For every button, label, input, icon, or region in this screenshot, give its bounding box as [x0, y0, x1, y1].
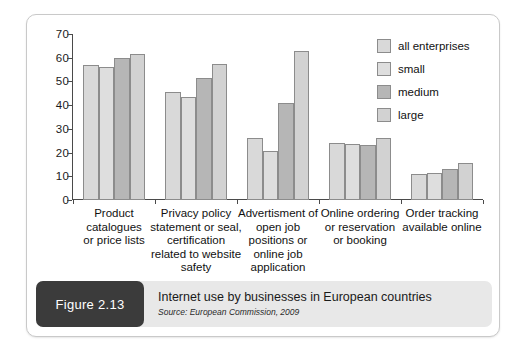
x-tick-4 [401, 200, 402, 204]
x-category-label-5: Order trackingavailable online [395, 207, 489, 234]
bar-small-group-2 [181, 97, 197, 200]
legend-swatch-icon-1 [377, 39, 391, 53]
bar-medium-group-4 [360, 145, 376, 200]
x-axis-category-labels: Productcataloguesor price listsPrivacy p… [73, 207, 485, 269]
x-category-label-3: Advertisment ofopen jobpositions oronlin… [231, 207, 325, 275]
legend-item-medium: medium [377, 83, 497, 101]
bar-large-group-1 [130, 54, 146, 200]
figure-card: 010203040506070 all enterprisessmallmedi… [26, 14, 500, 337]
y-tick-30 [67, 129, 72, 130]
x-category-label-2: Privacy policystatement or seal,certific… [149, 207, 243, 275]
figure-number-label: Figure 2.13 [55, 297, 124, 312]
y-tick-20 [67, 153, 72, 154]
bar-small-group-4 [345, 144, 361, 200]
bar-large-group-4 [376, 138, 392, 200]
y-axis-tick-labels: 010203040506070 [35, 15, 69, 195]
x-tick-1 [155, 200, 156, 204]
bar-all-enterprises-group-1 [83, 65, 99, 200]
bar-small-group-3 [263, 151, 279, 200]
figure-caption-bar: Figure 2.13 Internet use by businesses i… [36, 281, 492, 327]
bar-all-enterprises-group-4 [329, 143, 345, 200]
bar-medium-group-2 [196, 78, 212, 200]
bar-all-enterprises-group-2 [165, 92, 181, 200]
bar-small-group-1 [99, 67, 115, 200]
bar-medium-group-3 [278, 103, 294, 200]
legend-item-all-enterprises: all enterprises [377, 37, 497, 55]
bar-medium-group-1 [114, 58, 130, 200]
bar-large-group-5 [458, 163, 474, 200]
figure-title: Internet use by businesses in European c… [158, 290, 483, 305]
y-tick-40 [67, 105, 72, 106]
legend-label-2: small [398, 63, 425, 75]
y-tick-0 [67, 200, 72, 201]
legend-label-4: large [398, 109, 424, 121]
legend-label-3: medium [398, 86, 439, 98]
x-category-label-1: Productcataloguesor price lists [67, 207, 161, 248]
legend-swatch-icon-2 [377, 62, 391, 76]
y-tick-60 [67, 58, 72, 59]
chart-legend: all enterprisessmallmediumlarge [377, 37, 497, 129]
legend-item-small: small [377, 60, 497, 78]
x-tick-0 [73, 200, 74, 204]
figure-source: Source: European Commission, 2009 [158, 307, 483, 318]
y-tick-50 [67, 81, 72, 82]
x-category-label-4: Online orderingor reservationor booking [313, 207, 407, 248]
legend-swatch-icon-4 [377, 108, 391, 122]
x-tick-end [483, 200, 484, 204]
y-tick-70 [67, 34, 72, 35]
bar-large-group-3 [294, 51, 310, 200]
bar-large-group-2 [212, 64, 228, 200]
legend-item-large: large [377, 106, 497, 124]
legend-swatch-icon-3 [377, 85, 391, 99]
figure-number-badge: Figure 2.13 [36, 281, 144, 327]
chart-plot-area: 010203040506070 all enterprisessmallmedi… [27, 15, 501, 273]
x-tick-2 [237, 200, 238, 204]
bar-small-group-5 [427, 173, 443, 200]
bar-all-enterprises-group-3 [247, 138, 263, 200]
figure-caption-text: Internet use by businesses in European c… [158, 290, 483, 318]
legend-label-1: all enterprises [398, 40, 470, 52]
bar-medium-group-5 [442, 169, 458, 200]
y-tick-10 [67, 176, 72, 177]
x-tick-3 [319, 200, 320, 204]
bar-all-enterprises-group-5 [411, 174, 427, 200]
